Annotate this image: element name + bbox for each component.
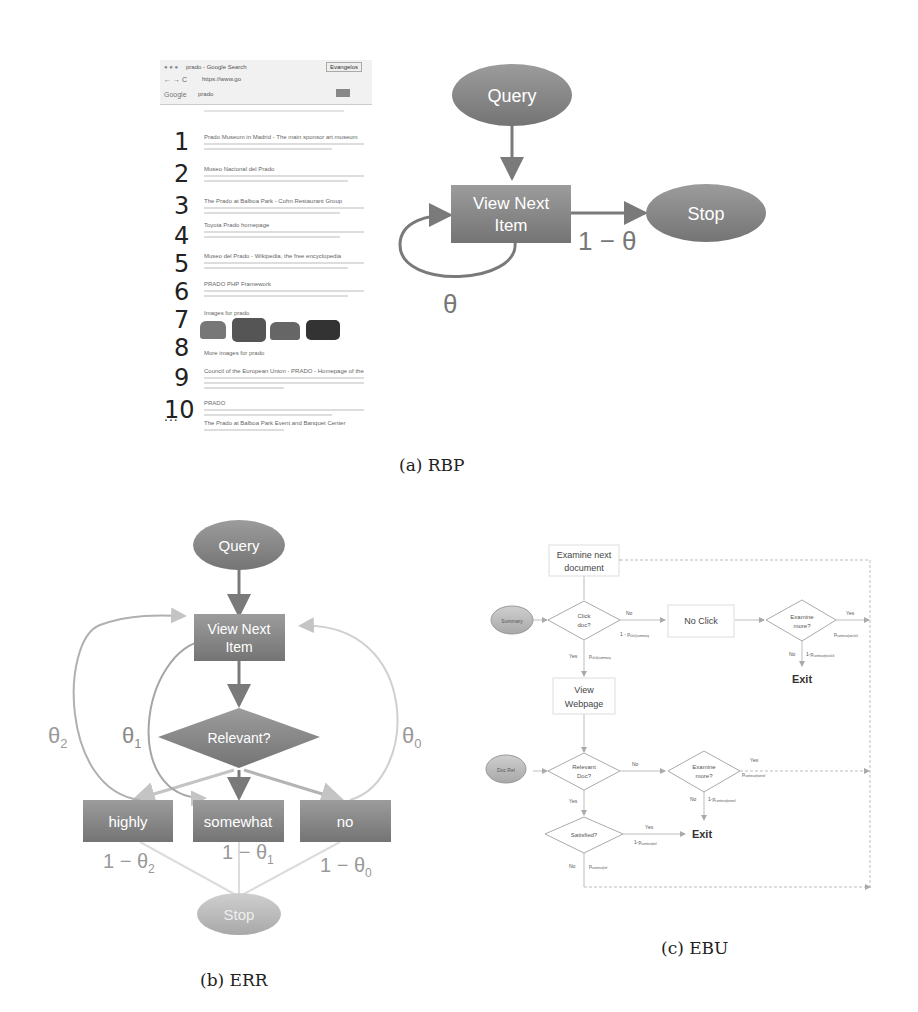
caption-rbp: (a) RBP: [399, 455, 465, 475]
err-theta1-label: θ1: [122, 723, 141, 751]
err-stop-label: Stop: [224, 906, 255, 923]
svg-text:View: View: [574, 685, 594, 695]
svg-text:Satisfied?: Satisfied?: [571, 832, 598, 838]
ebu-exit-2: Exit: [692, 828, 713, 840]
rbp-loop-prob: θ: [443, 289, 457, 319]
svg-text:Yes: Yes: [846, 610, 855, 616]
svg-text:pcontinue|rel: pcontinue|rel: [589, 863, 608, 870]
svg-text:Yes: Yes: [645, 824, 654, 830]
err-diagram: Query View Next Item Relevant? highly so…: [48, 520, 421, 935]
rbp-view-next-label-1: View Next: [473, 194, 549, 213]
rbp-exit-prob: 1 − θ: [578, 226, 637, 256]
svg-text:Yes: Yes: [569, 653, 578, 659]
ebu-nodes: Examine next document Summary Click doc?…: [486, 545, 836, 853]
svg-text:Examine: Examine: [790, 614, 814, 620]
svg-text:Webpage: Webpage: [565, 699, 603, 709]
rbp-stop-label: Stop: [687, 204, 724, 224]
svg-text:No Click: No Click: [684, 616, 718, 626]
diagram-canvas: Query View Next Item Stop 1 − θ θ Query …: [0, 0, 918, 1012]
svg-text:document: document: [564, 563, 604, 573]
err-stop0-label: 1 − θ0: [320, 854, 372, 880]
svg-text:1-pcontinue|rel: 1-pcontinue|rel: [634, 839, 657, 846]
svg-text:Doc?: Doc?: [577, 773, 592, 779]
ebu-examine-more-1-node: [766, 600, 836, 641]
svg-text:pclick|summary: pclick|summary: [589, 653, 611, 660]
svg-text:No: No: [626, 610, 633, 616]
svg-text:pcontinue|nonrel: pcontinue|nonrel: [742, 771, 766, 778]
err-stop2-label: 1 − θ2: [103, 850, 155, 876]
svg-text:pcontinue|noclick: pcontinue|noclick: [834, 631, 859, 638]
err-highly-label: highly: [108, 813, 148, 830]
svg-text:Yes: Yes: [750, 757, 759, 763]
caption-ebu: (c) EBU: [661, 938, 728, 958]
svg-text:more?: more?: [695, 773, 713, 779]
svg-text:more?: more?: [793, 623, 811, 629]
svg-text:Relevant: Relevant: [572, 764, 596, 770]
err-query-label: Query: [219, 537, 260, 554]
ebu-examine-more-2-node: [668, 751, 740, 792]
err-theta0-label: θ0: [402, 723, 421, 751]
svg-text:No: No: [690, 796, 697, 802]
svg-text:No: No: [569, 863, 576, 869]
svg-text:Click: Click: [578, 613, 592, 619]
rbp-diagram: Query View Next Item Stop 1 − θ θ: [400, 64, 766, 319]
ebu-exit-1: Exit: [792, 673, 813, 685]
svg-text:Examine next: Examine next: [557, 550, 612, 560]
ebu-click-doc-node: [548, 601, 620, 640]
err-relevant-label: Relevant?: [207, 730, 270, 746]
svg-text:Summary: Summary: [501, 618, 523, 624]
svg-text:Yes: Yes: [569, 798, 578, 804]
err-theta2-label: θ2: [48, 723, 67, 751]
svg-text:doc?: doc?: [577, 622, 591, 628]
caption-err: (b) ERR: [200, 970, 268, 990]
err-view-next-label-2: Item: [225, 639, 252, 655]
rbp-view-next-label-2: Item: [494, 216, 527, 235]
err-no-label: no: [337, 813, 354, 830]
svg-text:1 - pclick|summary: 1 - pclick|summary: [620, 631, 649, 638]
err-somewhat-label: somewhat: [204, 813, 273, 830]
svg-text:No: No: [789, 651, 796, 657]
err-stop1-label: 1 − θ1: [222, 841, 274, 867]
svg-text:No: No: [632, 761, 639, 767]
err-view-next-label-1: View Next: [208, 621, 271, 637]
ebu-relevant-doc-node: [548, 753, 620, 790]
svg-text:Doc Rel: Doc Rel: [497, 767, 515, 773]
rbp-query-label: Query: [487, 86, 536, 106]
svg-text:1-pcontinue|noclick: 1-pcontinue|noclick: [806, 651, 835, 658]
svg-text:1-pcontinue|nonrel: 1-pcontinue|nonrel: [708, 796, 736, 803]
svg-text:Examine: Examine: [692, 764, 716, 770]
